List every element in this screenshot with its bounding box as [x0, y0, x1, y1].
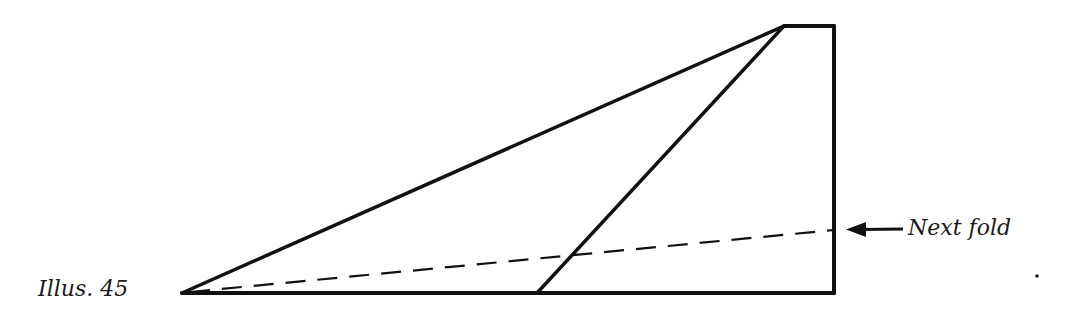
- inner-fold-line: [537, 26, 784, 293]
- stray-dot: [1035, 274, 1039, 278]
- next-fold-annotation: Next fold: [908, 217, 1011, 239]
- next-fold-dashed-line: [190, 230, 834, 292]
- fold-diagram: [0, 0, 1071, 322]
- left-arrow-icon: [846, 222, 903, 237]
- long-diagonal-edge: [182, 26, 784, 293]
- diagram-canvas: [0, 0, 1071, 322]
- figure-caption: Illus. 45: [38, 278, 128, 300]
